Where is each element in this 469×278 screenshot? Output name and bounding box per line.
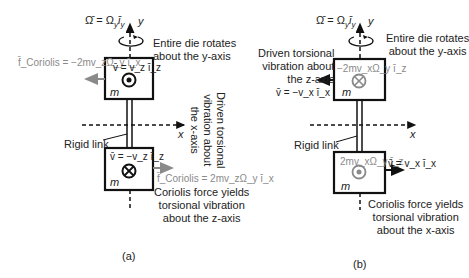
rotation-note: Entire die rotates about the y-axis (153, 37, 236, 63)
x-axis-label: x (410, 128, 416, 141)
caption-b: (b) (353, 258, 366, 271)
top-velocity-label: v̄ = v_z ī_z (113, 61, 161, 74)
y-axis-label: y (138, 15, 144, 28)
rotation-arrow-icon (119, 37, 143, 46)
x-axis-label: x (178, 128, 184, 141)
bottom-mass-label: m (110, 176, 119, 189)
driven-note: Driven torsional vibration about the x-a… (188, 92, 227, 168)
bottom-coriolis-label: f̄_Coriolis = 2mv_zΩ_y ī_x (157, 172, 274, 185)
rigid-link-label: Rigid link (64, 138, 109, 151)
top-mass-label: m (342, 86, 351, 99)
caption-a: (a) (122, 250, 135, 263)
top-coriolis-label: −2mv_xΩ_y ī_z (337, 62, 406, 75)
rotation-note: Entire die rotates about the y-axis (386, 32, 469, 58)
bottom-velocity-label: v̄ = −v_z ī_z (110, 150, 164, 163)
rigid-link-pointer (336, 136, 357, 142)
y-axis-label: y (368, 15, 374, 28)
result-note: Coriolis force yields torsional vibratio… (154, 186, 249, 225)
top-velocity-label: v̄ = −v_x ī_x (276, 86, 330, 99)
bottom-mass-label: m (341, 180, 350, 193)
driven-note: Driven torsional vibration about the z-a… (258, 47, 334, 86)
bottom-velocity-label: v̄ = v_x ī_x (388, 157, 436, 170)
omega-equation: Ω̄ = Ωyīy (85, 14, 124, 31)
top-mass-label: m (110, 86, 119, 99)
rigid-link-label: Rigid link (294, 139, 339, 152)
rotation-arrow-icon (349, 37, 373, 46)
omega-equation: Ω̄ = Ωyīy (316, 14, 355, 31)
result-note: Coriolis force yields torsional vibratio… (368, 198, 463, 237)
